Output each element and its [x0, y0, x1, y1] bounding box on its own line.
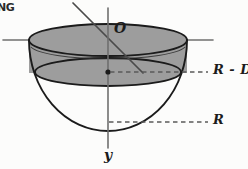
diagram-canvas: NG O R - D R y	[0, 0, 248, 169]
origin-label: O	[114, 21, 126, 35]
y-axis-label: y	[104, 148, 112, 162]
corner-note-label: NG	[0, 2, 14, 13]
center-point-dot	[105, 69, 110, 74]
level-label-r: R	[213, 113, 224, 126]
level-label-r-minus-d: R - D	[213, 63, 248, 76]
